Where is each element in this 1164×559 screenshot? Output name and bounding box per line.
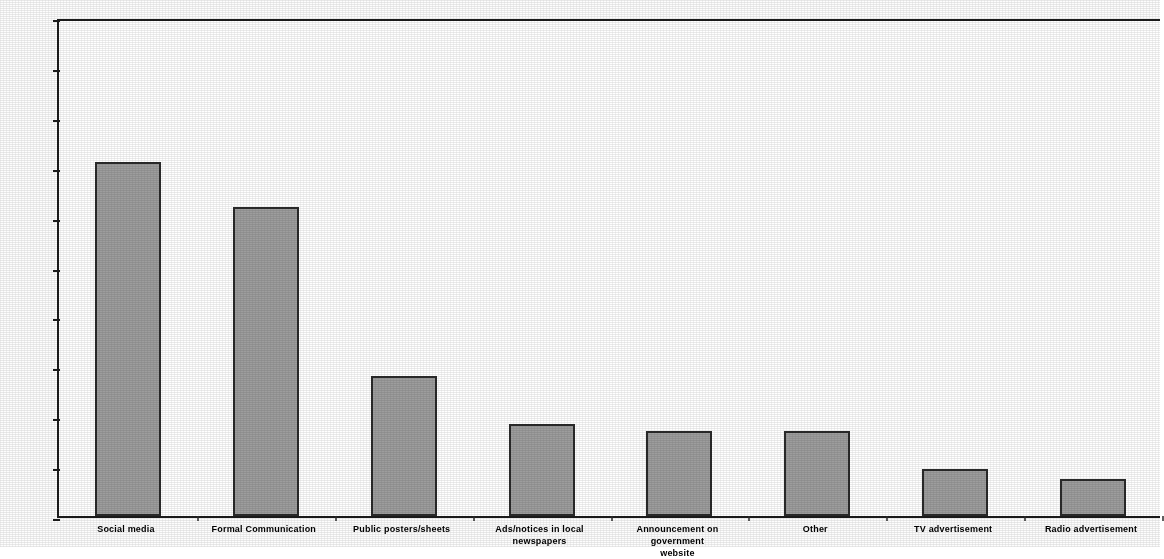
y-axis-tick-mark bbox=[53, 70, 60, 72]
bar bbox=[1060, 479, 1126, 516]
plot-area: 100%90%80%70%60%50%40%30%20%10%0% bbox=[57, 19, 1160, 518]
x-axis-category-label: Public posters/sheets bbox=[333, 523, 471, 535]
x-axis-tick-mark bbox=[473, 516, 475, 521]
bar bbox=[371, 376, 437, 516]
y-axis-tick-mark bbox=[53, 120, 60, 122]
x-axis-category-label-line: website bbox=[609, 547, 747, 559]
x-axis-category-label: Other bbox=[746, 523, 884, 535]
x-axis-tick-mark bbox=[1024, 516, 1026, 521]
x-axis-tick-mark bbox=[748, 516, 750, 521]
x-axis-category-label-line: newspapers bbox=[471, 535, 609, 547]
y-axis-tick-mark bbox=[53, 319, 60, 321]
x-axis-category-label-line: Radio advertisement bbox=[1022, 523, 1160, 535]
bar bbox=[233, 207, 299, 516]
bar bbox=[95, 162, 161, 516]
x-axis-category-label-line: Announcement on government bbox=[609, 523, 747, 547]
x-axis-category-label: Announcement on governmentwebsite bbox=[609, 523, 747, 559]
y-axis-tick-mark bbox=[53, 20, 60, 22]
y-axis-tick-mark bbox=[53, 270, 60, 272]
y-axis-tick-mark bbox=[53, 519, 60, 521]
y-axis-tick-mark bbox=[53, 369, 60, 371]
y-axis-tick-mark bbox=[53, 469, 60, 471]
x-axis-category-label-line: Public posters/sheets bbox=[333, 523, 471, 535]
x-axis-tick-mark bbox=[611, 516, 613, 521]
x-axis-category-label-line: TV advertisement bbox=[884, 523, 1022, 535]
x-axis-category-label: Formal Communication bbox=[195, 523, 333, 535]
x-axis-category-label-line: Social media bbox=[57, 523, 195, 535]
x-axis-category-label-line: Ads/notices in local bbox=[471, 523, 609, 535]
y-axis-tick-mark bbox=[53, 419, 60, 421]
x-axis-tick-mark bbox=[197, 516, 199, 521]
x-axis-tick-mark bbox=[886, 516, 888, 521]
x-axis-category-label: TV advertisement bbox=[884, 523, 1022, 535]
x-axis-category-label: Ads/notices in localnewspapers bbox=[471, 523, 609, 547]
y-axis-tick-mark bbox=[53, 220, 60, 222]
y-axis-tick-mark bbox=[53, 170, 60, 172]
x-axis-category-label: Radio advertisement bbox=[1022, 523, 1160, 535]
x-axis-tick-mark bbox=[335, 516, 337, 521]
bar bbox=[784, 431, 850, 516]
x-axis-category-label: Social media bbox=[57, 523, 195, 535]
x-axis-category-label-line: Other bbox=[746, 523, 884, 535]
bar bbox=[509, 424, 575, 516]
bar bbox=[646, 431, 712, 516]
bar bbox=[922, 469, 988, 516]
x-axis-category-label-line: Formal Communication bbox=[195, 523, 333, 535]
